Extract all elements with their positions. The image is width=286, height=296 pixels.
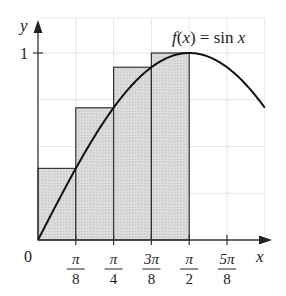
y-tick-label-1: 1 (20, 45, 28, 62)
x-tick-numerator: 3π (143, 251, 160, 267)
riemann-rectangle (114, 67, 152, 240)
origin-label: 0 (24, 248, 32, 265)
x-tick-numerator: π (110, 251, 118, 267)
riemann-sum-chart: π8π43π8π25π8 y x 1 0 f(x) = sin x f(x) =… (0, 0, 286, 296)
function-label: f(x) = sin x (172, 28, 246, 47)
x-ticks: π8π43π8π25π8 (67, 235, 236, 287)
x-tick-denominator: 2 (185, 271, 193, 287)
riemann-rectangle (151, 53, 189, 240)
x-tick-denominator: 8 (72, 271, 80, 287)
x-tick-denominator: 4 (110, 271, 118, 287)
y-axis-label: y (18, 16, 28, 35)
y-axis-arrow-icon (34, 20, 43, 33)
x-axis-label: x (255, 247, 264, 266)
x-tick-denominator: 8 (223, 271, 231, 287)
x-tick-numerator: π (72, 251, 80, 267)
x-tick-numerator: 5π (219, 251, 235, 267)
x-tick-numerator: π (185, 251, 193, 267)
riemann-rectangle (76, 108, 114, 240)
x-axis-arrow-icon (259, 236, 272, 245)
x-tick-denominator: 8 (148, 271, 156, 287)
